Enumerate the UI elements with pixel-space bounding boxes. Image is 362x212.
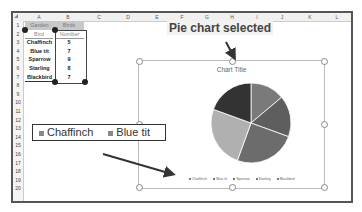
column-header-e[interactable]: E <box>143 13 171 21</box>
column-header-l[interactable]: L <box>323 13 351 21</box>
chart-legend[interactable]: Chaffinch Blue tit Sparrow Starling Blac… <box>189 177 299 181</box>
resize-handle-bottom[interactable] <box>229 184 236 191</box>
column-header-h[interactable]: H <box>218 13 246 21</box>
range-handle-top-left[interactable] <box>22 27 28 33</box>
row-header[interactable]: 9 <box>13 90 23 99</box>
row-header[interactable]: 6 <box>13 64 23 73</box>
legend-swatch-icon <box>39 131 44 136</box>
cell-bird[interactable]: Chaffinch <box>25 38 54 47</box>
cell-bird[interactable]: Blackbird <box>25 73 54 83</box>
resize-handle-right[interactable] <box>321 121 328 128</box>
number-range-selection <box>55 30 87 84</box>
column-header-j[interactable]: J <box>268 13 296 21</box>
range-handle-bottom-mid[interactable] <box>52 79 58 85</box>
cell-b1[interactable]: Birds <box>54 21 84 30</box>
column-header-i[interactable]: I <box>243 13 271 21</box>
resize-handle-top-left[interactable] <box>136 58 143 65</box>
legend-item: Blue tit <box>213 177 227 181</box>
zoomed-legend-item: Chaffinch <box>47 126 93 138</box>
row-header-bar: 1 2 3 4 5 6 7 8 9 10 11 12 13 14 15 16 1… <box>13 21 24 201</box>
chart-title[interactable]: Chart Title <box>139 66 324 73</box>
resize-handle-bottom-right[interactable] <box>321 184 328 191</box>
legend-item: Sparrow <box>233 177 249 181</box>
row-header[interactable]: 5 <box>13 55 23 64</box>
column-header-a[interactable]: A <box>25 13 53 21</box>
column-header-g[interactable]: G <box>193 13 221 21</box>
row-header[interactable]: 17 <box>13 159 23 168</box>
column-header-c[interactable]: C <box>85 13 113 21</box>
select-all-corner[interactable] <box>14 14 18 18</box>
cell-a1[interactable]: Garden <box>25 21 54 30</box>
legend-swatch-icon <box>233 178 235 180</box>
resize-handle-top-right[interactable] <box>321 58 328 65</box>
row-header[interactable]: 10 <box>13 98 23 107</box>
row-header[interactable]: 12 <box>13 116 23 125</box>
column-header-k[interactable]: K <box>296 13 324 21</box>
pie-chart-object[interactable]: Chart Title Chaffinch Blue tit Sparrow S… <box>138 60 325 189</box>
legend-swatch-icon <box>108 131 113 136</box>
resize-handle-top[interactable] <box>229 58 236 65</box>
legend-swatch-icon <box>277 178 279 180</box>
legend-swatch-icon <box>213 178 215 180</box>
legend-item: Starling <box>256 177 271 181</box>
column-header-d[interactable]: D <box>114 13 142 21</box>
range-handle-bottom-right[interactable] <box>82 79 88 85</box>
legend-item: Chaffinch <box>189 177 207 181</box>
row-header[interactable]: 18 <box>13 167 23 176</box>
range-handle-top-mid[interactable] <box>52 27 58 33</box>
row-header[interactable]: 15 <box>13 141 23 150</box>
row-header[interactable]: 8 <box>13 81 23 90</box>
row-header[interactable]: 19 <box>13 176 23 185</box>
legend-item: Blackbird <box>277 177 295 181</box>
column-header-f[interactable]: F <box>168 13 196 21</box>
row-header[interactable]: 20 <box>13 184 23 193</box>
annotation-label: Pie chart selected <box>167 21 273 35</box>
pie-plot-area[interactable] <box>209 81 293 165</box>
row-header[interactable]: 13 <box>13 124 23 133</box>
row-header[interactable]: 11 <box>13 107 23 116</box>
row-header[interactable]: 7 <box>13 73 23 82</box>
column-header-b[interactable]: B <box>54 13 82 21</box>
zoomed-legend-callout: Chaffinch Blue tit <box>32 124 166 141</box>
cell-bird[interactable]: Sparrow <box>25 55 54 64</box>
legend-swatch-icon <box>256 178 258 180</box>
row-header[interactable]: 4 <box>13 47 23 56</box>
legend-swatch-icon <box>189 178 191 180</box>
row-header[interactable]: 16 <box>13 150 23 159</box>
cell-bird[interactable]: Starling <box>25 64 54 73</box>
resize-handle-bottom-left[interactable] <box>136 184 143 191</box>
spreadsheet-window: A B C D E F G H I J K L 1 2 3 4 5 6 7 8 … <box>11 11 353 203</box>
row-header[interactable]: 14 <box>13 133 23 142</box>
row-header[interactable]: 3 <box>13 38 23 47</box>
cell-bird[interactable]: Blue tit <box>25 47 54 56</box>
zoomed-legend-item: Blue tit <box>116 126 150 138</box>
